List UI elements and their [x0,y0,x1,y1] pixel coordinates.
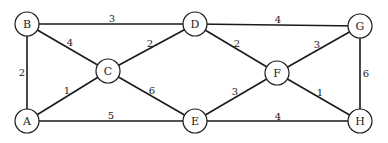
edge-weight-label: 4 [275,14,281,25]
edges-layer [27,24,360,121]
node-label: A [22,115,32,128]
edge-c-e [108,71,195,121]
node-g: G [348,14,372,38]
edge-weight-label: 2 [19,67,25,78]
node-a: A [15,109,39,133]
node-label: G [356,20,365,33]
weighted-graph-diagram: 32421654233146 ABCDEFGH [0,0,388,143]
node-label: E [191,115,199,128]
edge-weight-label: 1 [64,85,70,96]
node-label: F [273,67,281,80]
edge-weight-label: 4 [275,111,281,122]
edge-weight-label: 4 [67,37,73,48]
node-e: E [183,109,207,133]
edge-d-f [195,24,277,73]
edge-a-c [27,71,108,121]
edge-f-g [277,26,360,73]
edge-weight-label: 2 [234,38,240,49]
node-c: C [96,59,120,83]
edge-weight-label: 6 [363,68,369,79]
node-b: B [15,12,39,36]
edge-weight-label: 2 [147,38,153,49]
node-label: D [191,18,200,31]
edge-weight-label: 6 [149,85,155,96]
nodes-layer: ABCDEFGH [15,12,372,133]
node-f: F [265,61,289,85]
node-h: H [348,109,372,133]
node-label: H [355,115,365,128]
edge-weight-label: 1 [317,87,323,98]
edge-e-f [195,73,277,121]
node-d: D [183,12,207,36]
edge-weight-label: 3 [232,86,238,97]
edge-weight-label: 3 [314,39,320,50]
edge-weight-label: 3 [109,13,115,24]
node-label: B [23,18,31,31]
node-label: C [104,65,112,78]
edge-weight-label: 5 [108,110,114,121]
edge-b-c [27,24,108,71]
